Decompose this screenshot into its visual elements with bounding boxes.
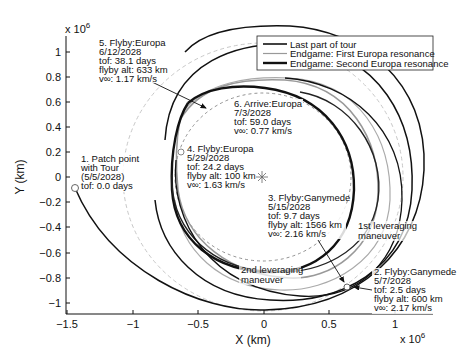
y-tick: 0 [55, 171, 61, 183]
svg-text:v∞: 0.77 km/s: v∞: 0.77 km/s [234, 125, 292, 136]
y-tick: 0.4 [46, 121, 61, 133]
x-tick: 0.5 [321, 318, 336, 330]
y-tick: −0.6 [39, 247, 61, 259]
europa-flyby-4-marker [178, 149, 184, 155]
annotation-event-5: 5. Flyby:Europa 6/12/2028 tof: 38.1 days… [96, 37, 168, 84]
patch-point-marker [72, 185, 79, 192]
y-tick: −0.8 [39, 272, 61, 284]
x-axis-title: X (km) [235, 333, 270, 347]
y-tick: −0.2 [39, 196, 61, 208]
annotation-event-2: 2. Flyby:Ganymede 5/7/2028 tof: 2.5 days… [372, 266, 462, 314]
y-tick: −0.4 [39, 221, 61, 233]
svg-text:v∞: 2.17 km/s: v∞: 2.17 km/s [374, 302, 432, 313]
y-tick: 1 [55, 46, 61, 58]
legend: Last part of tour Endgame: First Europa … [257, 36, 448, 70]
arrow-event-3 [318, 240, 344, 282]
x-tick: −1 [127, 318, 140, 330]
y-tick: −1 [48, 297, 61, 309]
annotation-event-4: 4. Flyby:Europa 5/29/2028 tof: 24.2 days… [185, 143, 256, 191]
legend-label-second-resonance: Endgame: Second Europa resonance [290, 58, 448, 69]
annotation-event-6: 6. Arrive:Europa 7/3/2028 tof: 59.0 days… [231, 98, 303, 136]
annotation-event-1: 1. Patch point with Tour (5/5/2028) tof:… [79, 153, 139, 192]
x-tick-labels: −1.5 −1 −0.5 0 0.5 1 [56, 318, 398, 330]
y-tick: 0.8 [46, 71, 61, 83]
x-tick: 0 [261, 318, 267, 330]
y-tick: 0.6 [46, 96, 61, 108]
x-tick: 1 [392, 318, 398, 330]
ganymede-flyby-2-marker [344, 284, 350, 290]
x-axis-multiplier: x 106 [400, 331, 426, 345]
y-axis-title: Y (km) [13, 159, 27, 194]
annotation-maneuver-2: 2nd leveraging maneuver [239, 264, 303, 285]
svg-text:tof: 0.0 days: tof: 0.0 days [81, 180, 133, 191]
svg-text:v∞: 1.17 km/s: v∞: 1.17 km/s [99, 73, 157, 84]
y-tick: 0.2 [46, 146, 61, 158]
x-tick: −0.5 [187, 318, 209, 330]
svg-text:v∞: 1.63 km/s: v∞: 1.63 km/s [187, 179, 245, 190]
svg-text:maneuver: maneuver [241, 274, 283, 285]
annotation-maneuver-1: 1st leveraging maneuver [356, 220, 417, 241]
annotation-event-3: 3. Flyby:Ganymede 5/15/2028 tof: 9.7 day… [266, 192, 350, 239]
svg-text:v∞: 2.16 km/s: v∞: 2.16 km/s [268, 228, 326, 239]
svg-text:maneuver: maneuver [358, 230, 400, 241]
y-tick-labels: 1 0.8 0.6 0.4 0.2 0 −0.2 −0.4 −0.6 −0.8 … [39, 46, 61, 309]
x-tick: −1.5 [56, 318, 78, 330]
jupiter-asterisk-icon [256, 171, 268, 183]
trajectory-plot: −1.5 −1 −0.5 0 0.5 1 1 0.8 0.6 0.4 0.2 0… [0, 0, 468, 363]
arrow-event-2 [354, 287, 372, 290]
y-axis-multiplier: x 106 [65, 21, 91, 35]
